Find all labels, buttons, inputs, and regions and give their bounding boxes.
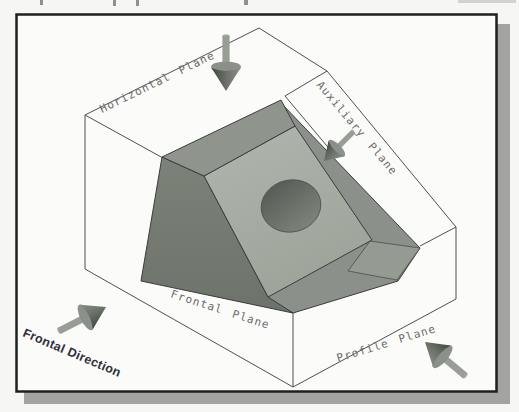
diagram-canvas: Horizontal Plane Auxiliary Plane Frontal…	[0, 0, 519, 412]
cropped-text-remnants	[40, 0, 516, 6]
figure-glass-box-diagram: Horizontal Plane Auxiliary Plane Frontal…	[0, 0, 519, 412]
